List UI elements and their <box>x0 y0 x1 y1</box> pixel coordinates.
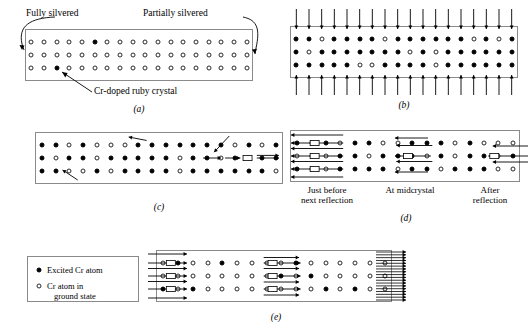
photon-marker <box>166 286 175 291</box>
legend-ground-label-line1: Cr atom in <box>47 281 83 291</box>
pump-arrow-bottom <box>408 75 412 95</box>
beam-arrow-mid <box>264 256 299 260</box>
beam-arrow-mid <box>395 170 428 174</box>
photon-marker <box>243 155 252 160</box>
label-fully-silvered: Fully silvered <box>26 8 79 18</box>
pump-arrow-top <box>484 9 488 29</box>
pump-arrow-top <box>408 9 412 29</box>
caption-b: (b) <box>384 100 424 110</box>
beam-arrow-after-reflection <box>493 144 528 148</box>
beam-arrow-left <box>291 147 343 151</box>
laser-output-arrow <box>376 284 406 288</box>
laser-output-arrow <box>376 253 406 257</box>
caption-a: (a) <box>119 104 159 114</box>
label-d-left-line2: next reflection <box>288 195 366 205</box>
pump-arrow-bottom <box>396 75 400 95</box>
pump-arrow-top <box>370 9 374 29</box>
legend-box: Excited Cr atom Cr atom in ground state <box>27 256 139 302</box>
photon-marker <box>310 153 319 158</box>
pump-arrow-top <box>383 9 387 29</box>
label-d-right-line2: reflection <box>457 195 523 205</box>
pump-arrow-bottom <box>484 75 488 95</box>
pump-arrow-top <box>459 9 463 29</box>
pump-arrow-top <box>446 9 450 29</box>
pump-arrow-bottom <box>307 75 311 95</box>
label-at-midcrystal: At midcrystal <box>370 185 450 195</box>
pump-arrow-bottom <box>332 75 336 95</box>
pump-arrow-top <box>307 9 311 29</box>
laser-output-arrow <box>376 273 406 277</box>
pump-arrow-top <box>421 9 425 29</box>
pump-arrow-bottom <box>459 75 463 95</box>
beam-arrow-after-reflection <box>493 160 528 164</box>
panel-b: (b) <box>265 0 530 118</box>
laser-output-arrow <box>376 281 406 285</box>
laser-output-arrow <box>376 256 406 260</box>
photon-marker <box>268 273 277 278</box>
laser-output-arrow <box>376 287 406 291</box>
label-after-reflection: After reflection <box>457 185 523 206</box>
caption-e: (e) <box>256 312 296 322</box>
pump-arrow-top <box>345 9 349 29</box>
pump-arrow-top <box>434 9 438 29</box>
label-d-left-line1: Just before <box>288 185 366 195</box>
pump-arrow-bottom <box>421 75 425 95</box>
panel-c: (c) <box>10 118 295 228</box>
spontaneous-emission-arrow <box>214 136 229 152</box>
pump-arrow-top <box>510 9 514 29</box>
spontaneous-emission-arrow <box>129 136 147 141</box>
laser-output-arrow <box>376 295 406 299</box>
spontaneous-emission-arrow <box>63 170 78 180</box>
legend-excited-label: Excited Cr atom <box>47 265 103 275</box>
panel-d: Just before next reflection At midcrysta… <box>282 118 530 228</box>
laser-output-arrow <box>376 290 406 294</box>
label-d-right-line1: After <box>457 185 523 195</box>
photon-marker <box>166 260 175 265</box>
stimulated-emission-arrow <box>225 156 240 160</box>
beam-arrow-right <box>148 280 187 284</box>
pump-arrow-bottom <box>446 75 450 95</box>
label-just-before-next-reflection: Just before next reflection <box>288 185 366 206</box>
photon-marker <box>268 286 277 291</box>
pump-arrow-bottom <box>510 75 514 95</box>
photon-marker <box>404 153 413 158</box>
pump-arrow-bottom <box>370 75 374 95</box>
laser-output-arrow <box>376 276 406 280</box>
pump-arrow-bottom <box>383 75 387 95</box>
beam-arrow-left <box>291 160 343 164</box>
caption-d: (d) <box>386 213 426 223</box>
pump-arrow-bottom <box>472 75 476 95</box>
beam-arrow-mid <box>395 136 428 140</box>
pump-arrow-bottom <box>434 75 438 95</box>
pump-arrow-bottom <box>497 75 501 95</box>
pump-arrow-bottom <box>294 75 298 95</box>
label-partially-silvered: Partially silvered <box>143 8 208 18</box>
pump-arrow-top <box>396 9 400 29</box>
pump-arrow-top <box>358 9 362 29</box>
laser-output-arrow <box>376 267 406 271</box>
laser-output-arrow <box>376 264 406 268</box>
beam-arrows-d <box>282 118 530 228</box>
beam-arrow-mid <box>264 280 299 284</box>
label-cr-doped-ruby-crystal: Cr-doped ruby crystal <box>94 86 177 96</box>
pump-arrow-top <box>497 9 501 29</box>
laser-output-arrow <box>376 250 406 254</box>
photon-marker <box>310 166 319 171</box>
pump-arrow-top <box>472 9 476 29</box>
beam-arrow-right <box>148 296 187 300</box>
beam-arrow-mid <box>396 160 432 164</box>
pump-arrow-top <box>332 9 336 29</box>
beam-arrow-right <box>148 267 187 271</box>
legend-excited-icon <box>37 268 42 273</box>
photon-marker <box>166 273 175 278</box>
beam-arrow-left <box>291 133 343 137</box>
caption-c: (c) <box>139 202 179 212</box>
stimulated-emission-arrow <box>203 156 221 160</box>
beam-arrow-left <box>291 175 343 179</box>
photon-marker <box>490 153 499 158</box>
legend-ground-label-line2: ground state <box>54 291 96 301</box>
laser-output-arrow <box>376 270 406 274</box>
pump-arrow-bottom <box>320 75 324 95</box>
pump-arrow-bottom <box>345 75 349 95</box>
pump-arrow-bottom <box>358 75 362 95</box>
